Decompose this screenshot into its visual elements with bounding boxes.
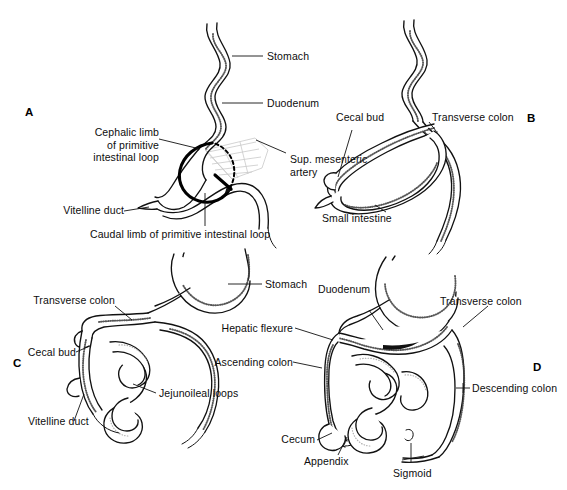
- panel-c-jejunoileal-loops: [104, 342, 150, 443]
- panel-b-hindgut-2: [429, 241, 437, 254]
- label-b-small-intestine: Small intestine: [322, 212, 392, 225]
- panel-letter-c: C: [13, 357, 22, 369]
- label-b-transverse-colon: Transverse colon: [432, 111, 514, 124]
- label-d-appendix: Appendix: [304, 455, 349, 468]
- label-d-transverse-colon: Transverse colon: [440, 295, 522, 308]
- panel-d-jejunoileal-loops: [348, 354, 428, 453]
- label-a-stomach: Stomach: [267, 50, 309, 63]
- label-d-descending-colon: Descending colon: [472, 382, 557, 395]
- label-c-cecal-bud: Cecal bud: [21, 346, 76, 359]
- label-c-stomach: Stomach: [265, 278, 307, 291]
- panel-letter-b: B: [527, 112, 536, 124]
- panel-b-vitelline-tip: [315, 196, 333, 208]
- label-d-hepatic-flexure: Hepatic flexure: [180, 322, 293, 335]
- label-c-vitelline-duct: Vitelline duct: [28, 415, 89, 428]
- label-b-cecal-bud: Cecal bud: [336, 111, 384, 124]
- label-a-cephalic-limb: Cephalic limb of primitive intestinal lo…: [19, 126, 159, 164]
- label-c-jejunoileal-loops: Jejunoileal loops: [159, 387, 238, 400]
- label-a-vitelline-duct: Vitelline duct: [14, 204, 124, 217]
- panel-b-hindgut: [437, 240, 446, 254]
- panel-d-sigmoid-kink: [405, 429, 413, 440]
- panel-c-vitelline-duct: [67, 378, 80, 397]
- label-d-ascending-colon: Ascending colon: [180, 356, 293, 369]
- label-a-caudal-limb: Caudal limb of primitive intestinal loop: [90, 228, 270, 241]
- label-a-sup-mesenteric-artery: Sup. mesenteric artery: [290, 153, 367, 178]
- label-d-duodenum: Duodenum: [318, 283, 370, 296]
- label-c-transverse-colon: Transverse colon: [29, 294, 115, 307]
- panel-c-hindgut: [188, 432, 205, 448]
- panel-c-duodenum-outer: [148, 296, 181, 313]
- label-a-duodenum: Duodenum: [267, 97, 319, 110]
- embryology-figure: A B C D Stomach Duodenum Cephalic limb o…: [0, 0, 567, 490]
- panel-letter-d: D: [533, 361, 542, 373]
- panel-letter-a: A: [25, 106, 34, 118]
- label-d-cecum: Cecum: [262, 433, 315, 446]
- panel-d-sigmoid-inner: [403, 455, 432, 458]
- panel-c-drawing: [67, 249, 250, 448]
- label-d-sigmoid: Sigmoid: [393, 467, 432, 480]
- panel-c-hindgut-2: [182, 428, 198, 444]
